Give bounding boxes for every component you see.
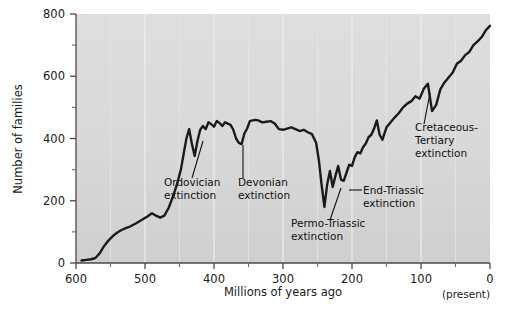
annotation-text-line: extinction [238,189,290,201]
y-axis: 0200400600800 [43,7,76,270]
annotation-text-line: extinction [363,197,415,209]
annotation-text-line: extinction [415,147,467,159]
annotation-text-line: Ordovician [164,176,220,188]
annotation-text-line: Permo-Triassic [291,217,366,229]
x-axis: 6005004003002001000 [65,263,494,286]
figure-container: 0200400600800 6005004003002001000 Ordovi… [0,0,505,315]
annotation-text-line: extinction [164,189,216,201]
y-tick-label-0: 0 [58,256,65,270]
y-tick-label-200: 200 [43,194,65,208]
annotation-text-line: extinction [291,230,343,242]
x-tick-label-600: 600 [65,272,87,286]
present-label: (present) [442,288,490,300]
x-tick-label-100: 100 [410,272,432,286]
annotation-text-line: End-Triassic [363,184,424,196]
x-tick-label-300: 300 [272,272,294,286]
y-tick-label-800: 800 [43,7,65,21]
extinction-line-chart: 0200400600800 6005004003002001000 Ordovi… [0,0,505,315]
y-axis-title: Number of families [11,84,25,194]
annotation-text-line: Devonian [238,176,288,188]
y-tick-label-600: 600 [43,69,65,83]
x-tick-label-0: 0 [486,272,493,286]
x-tick-label-400: 400 [203,272,225,286]
x-tick-label-200: 200 [341,272,363,286]
x-axis-title: Millions of years ago [224,285,342,299]
x-tick-label-500: 500 [134,272,156,286]
annotation-text-line: Tertiary [414,134,454,146]
y-tick-label-400: 400 [43,132,65,146]
annotation-text-line: Cretaceous- [415,121,478,133]
